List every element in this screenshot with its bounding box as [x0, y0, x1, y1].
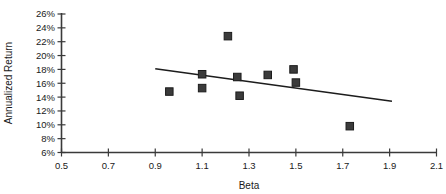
y-tick-label: 18%	[36, 64, 56, 75]
y-tick-label: 10%	[36, 119, 56, 130]
y-tick-label: 16%	[36, 78, 56, 89]
x-tick-label: 0.5	[55, 160, 68, 171]
trend-line-group	[155, 69, 392, 102]
x-tick-label: 0.7	[102, 160, 115, 171]
x-tick-label: 1.9	[383, 160, 396, 171]
y-tick-label: 6%	[41, 147, 55, 158]
x-axis-title: Beta	[239, 180, 260, 191]
y-tick-label: 8%	[41, 133, 55, 144]
data-point-marker	[292, 79, 300, 87]
data-point-marker	[224, 32, 232, 40]
y-tick-label: 14%	[36, 92, 56, 103]
x-tick-label: 2.1	[430, 160, 443, 171]
data-points-group	[166, 32, 354, 130]
data-point-marker	[198, 70, 206, 78]
x-tick-label: 1.3	[242, 160, 255, 171]
y-tick-label: 20%	[36, 50, 56, 61]
data-point-marker	[198, 84, 206, 92]
y-axis-title: Annualized Return	[3, 42, 14, 124]
x-tick-label: 0.9	[149, 160, 162, 171]
y-tick-label: 22%	[36, 36, 56, 47]
data-point-marker	[290, 66, 298, 74]
y-tick-label: 12%	[36, 105, 56, 116]
x-tick-label: 1.1	[196, 160, 209, 171]
data-point-marker	[346, 122, 354, 130]
data-point-marker	[264, 71, 272, 79]
data-point-marker	[166, 88, 174, 96]
x-tick-label: 1.7	[336, 160, 349, 171]
scatter-chart: 6%8%10%12%14%16%18%20%22%24%26% 0.50.70.…	[0, 0, 446, 194]
y-tick-label: 26%	[36, 8, 56, 19]
y-tick-label: 24%	[36, 22, 56, 33]
plot-area: 6%8%10%12%14%16%18%20%22%24%26% 0.50.70.…	[0, 0, 446, 194]
x-tick-label: 1.5	[289, 160, 302, 171]
data-point-marker	[234, 73, 242, 81]
trend-line	[155, 69, 392, 102]
data-point-marker	[236, 92, 244, 100]
